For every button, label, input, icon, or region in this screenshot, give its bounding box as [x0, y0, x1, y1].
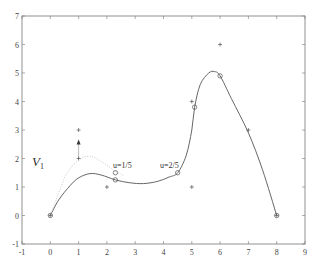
x-tick-label: 0: [48, 248, 52, 257]
axis-ticks: -10123456789-101234567: [12, 12, 307, 257]
x-tick-label: 4: [162, 248, 166, 257]
plot-border: [22, 16, 305, 244]
control-point-plus-icon: [77, 157, 81, 161]
curve-line: [50, 71, 276, 215]
y-tick-label: 5: [15, 69, 19, 78]
data-series: [50, 71, 276, 215]
control-point-plus-icon: [246, 128, 250, 132]
y-tick-label: 3: [15, 126, 19, 135]
control-point-plus-icon: [190, 185, 194, 189]
arrow-head-icon: [77, 139, 81, 144]
x-tick-label: 3: [133, 248, 137, 257]
x-tick-label: -1: [19, 248, 26, 257]
y-tick-label: 2: [15, 155, 19, 164]
u-2-5-label: u=2/5: [160, 161, 179, 170]
x-tick-label: 2: [105, 248, 109, 257]
control-point-plus-icon: [218, 43, 222, 47]
x-tick-label: 6: [218, 248, 222, 257]
x-tick-label: 5: [190, 248, 194, 257]
v1-label: V1: [32, 154, 44, 171]
annotations: V1 u=1/5 u=2/5: [32, 154, 179, 171]
control-point-plus-icon: [77, 128, 81, 132]
y-tick-label: 0: [15, 212, 19, 221]
x-tick-label: 7: [246, 248, 250, 257]
control-point-plus-icon: [105, 185, 109, 189]
x-tick-label: 9: [303, 248, 307, 257]
plot-frame: [22, 16, 305, 244]
markers: [48, 43, 279, 218]
x-tick-label: 8: [275, 248, 279, 257]
y-tick-label: -1: [12, 240, 19, 249]
u-1-5-label: u=1/5: [113, 161, 132, 170]
y-tick-label: 7: [15, 12, 19, 21]
y-tick-label: 1: [15, 183, 19, 192]
y-tick-label: 6: [15, 41, 19, 50]
x-tick-label: 1: [77, 248, 81, 257]
control-point-plus-icon: [190, 100, 194, 104]
y-tick-label: 4: [15, 98, 19, 107]
chart: -10123456789-101234567 V1 u=1/5 u=2/5: [0, 0, 322, 264]
